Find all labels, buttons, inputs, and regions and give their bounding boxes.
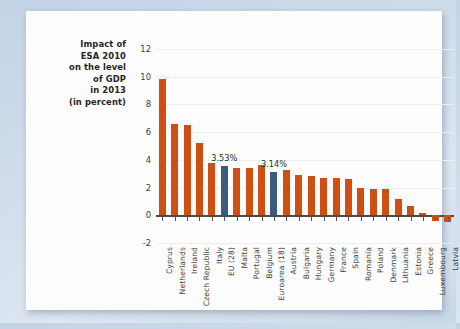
x-axis-label: Germany [327, 247, 336, 283]
bar [320, 178, 327, 215]
bar [295, 175, 302, 215]
chart-title-line: Impact of [34, 39, 126, 51]
bar [345, 179, 352, 216]
x-axis-label: Latvia [451, 247, 460, 271]
x-axis-label: Austria [289, 247, 298, 275]
y-axis-tick-label: -2 [143, 238, 151, 248]
x-axis-label: Romania [364, 247, 373, 281]
y-axis-tick-label: 2 [146, 183, 151, 193]
bar [258, 165, 265, 215]
x-axis-label: Cyprus [165, 247, 174, 274]
bar [196, 143, 203, 215]
chart-title-line: on the level [34, 62, 126, 74]
x-axis-tick [187, 217, 188, 221]
gridline [156, 243, 454, 244]
x-axis-label: EU (28) [227, 247, 236, 276]
chart-canvas: 3.53%3.14% [156, 49, 454, 243]
x-axis-tick [262, 217, 263, 221]
bar [357, 188, 364, 216]
bar-value-callout: 3.14% [261, 159, 287, 169]
y-axis-tick-label: 6 [146, 127, 151, 137]
x-axis-tick [311, 217, 312, 221]
x-axis-tick [175, 217, 176, 221]
x-axis-tick [435, 217, 436, 221]
bar [283, 170, 290, 216]
bar [407, 206, 414, 216]
gridline [156, 132, 454, 133]
y-axis-tick-label: 4 [146, 155, 151, 165]
x-axis-label: Lithuania [401, 247, 410, 283]
bar [395, 199, 402, 216]
x-axis-tick [162, 217, 163, 221]
chart-title: Impact ofESA 2010on the levelof GDPin 20… [34, 39, 126, 109]
bar [333, 178, 340, 215]
bar [308, 176, 315, 215]
gridline [156, 104, 454, 105]
y-axis-tick-label: 12 [140, 44, 151, 54]
x-axis-label: Portugal [252, 247, 261, 279]
x-axis-label: Greece [426, 247, 435, 275]
chart-title-line: ESA 2010 [34, 51, 126, 63]
x-axis-tick [373, 217, 374, 221]
y-axis-tick-label: 8 [146, 99, 151, 109]
x-axis-label: Czech Republic [202, 247, 211, 306]
x-axis-tick [423, 217, 424, 221]
bar [246, 168, 253, 215]
chart-title-line: in 2013 [34, 85, 126, 97]
bar [382, 189, 389, 215]
x-axis-label: Estonia [414, 247, 423, 276]
x-axis-tick [411, 217, 412, 221]
x-axis-tick [299, 217, 300, 221]
bar [171, 124, 178, 215]
zero-axis-line [156, 215, 454, 216]
x-axis-label: Poland [376, 247, 385, 273]
bar [208, 163, 215, 216]
x-axis-label: Ireland [190, 247, 199, 274]
x-axis-label: Hungary [314, 247, 323, 280]
x-axis-tick [224, 217, 225, 221]
x-axis-label: Belgium [265, 247, 274, 279]
x-axis-label: Malta [240, 247, 249, 268]
x-axis-label: Italy [215, 247, 224, 264]
x-axis-tick [199, 217, 200, 221]
x-axis-tick [286, 217, 287, 221]
x-axis-tick [361, 217, 362, 221]
gridline [156, 49, 454, 50]
bar [233, 168, 240, 215]
x-axis-label: Euroarea (18) [277, 247, 286, 300]
gridline [156, 77, 454, 78]
y-axis: -2024681012 [134, 49, 154, 243]
x-axis-tick [249, 217, 250, 221]
x-axis-tick [324, 217, 325, 221]
chart-title-line: (in percent) [34, 97, 126, 109]
chart-card: Impact ofESA 2010on the levelof GDPin 20… [26, 11, 442, 310]
y-axis-tick-label: 0 [146, 210, 151, 220]
x-axis-tick [386, 217, 387, 221]
chart-title-line: of GDP [34, 74, 126, 86]
x-axis-tick [398, 217, 399, 221]
x-axis-label: France [339, 247, 348, 273]
x-axis-label: Denmark [389, 247, 398, 283]
x-axis-tick [336, 217, 337, 221]
x-axis-tick [237, 217, 238, 221]
x-axis-label: Bulgaria [302, 247, 311, 279]
x-axis-tick [212, 217, 213, 221]
x-axis-tick [448, 217, 449, 221]
bar [270, 172, 277, 216]
bar [184, 125, 191, 215]
bar-value-callout: 3.53% [211, 153, 237, 163]
plot-area: -2024681012 3.53%3.14% CyprusNetherlands… [134, 49, 454, 325]
bar [419, 213, 426, 216]
bar [159, 79, 166, 215]
bar [221, 166, 228, 215]
x-axis-label: Luxembourg [438, 247, 447, 295]
bar [370, 189, 377, 215]
x-axis-labels: CyprusNetherlandsIrelandCzech RepublicIt… [156, 247, 454, 329]
x-axis-tick [348, 217, 349, 221]
x-axis-label: Netherlands [178, 247, 187, 294]
y-axis-tick-label: 10 [140, 72, 151, 82]
x-axis-tick [274, 217, 275, 221]
x-axis-label: Spain [351, 247, 360, 269]
